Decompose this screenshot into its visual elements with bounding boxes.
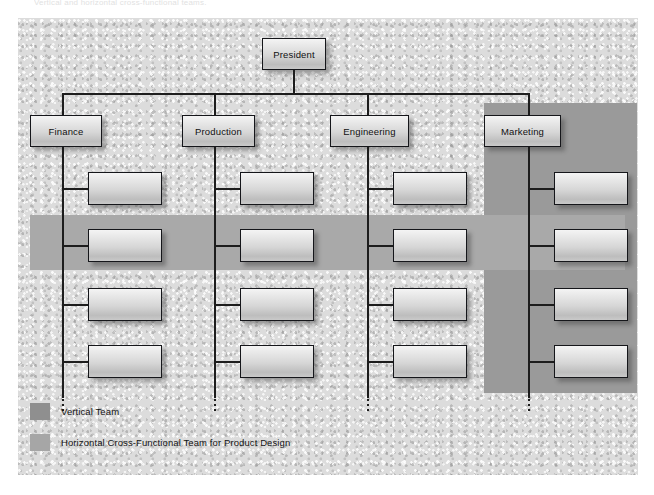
node-production-label: Production	[195, 126, 242, 137]
node-engineering-unit-1[interactable]	[393, 172, 467, 205]
connector-marketing-4	[528, 361, 554, 363]
node-engineering[interactable]: Engineering	[330, 115, 409, 147]
node-engineering-label: Engineering	[343, 126, 395, 137]
node-finance-unit-2[interactable]	[88, 229, 162, 262]
connector-engineering-2	[367, 245, 393, 247]
node-marketing-unit-4[interactable]	[554, 345, 628, 378]
node-engineering-unit-4[interactable]	[393, 345, 467, 378]
connector-finance-1	[62, 188, 88, 190]
node-finance-unit-1[interactable]	[88, 172, 162, 205]
connector-bus	[62, 93, 529, 95]
connector-production-4	[214, 361, 240, 363]
diagram-canvas: President Finance Production Engineering…	[18, 18, 638, 475]
stem-engineering-dots	[367, 399, 369, 412]
connector-marketing-3	[528, 304, 554, 306]
connector-finance-2	[62, 245, 88, 247]
node-production-unit-4[interactable]	[240, 345, 314, 378]
node-finance-unit-3[interactable]	[88, 288, 162, 321]
connector-production-1	[214, 188, 240, 190]
connector-marketing-2	[528, 245, 554, 247]
top-caption: Vertical and horizontal cross-functional…	[34, 0, 207, 7]
connector-engineering-3	[367, 304, 393, 306]
node-finance-unit-4[interactable]	[88, 345, 162, 378]
node-marketing-label: Marketing	[501, 126, 544, 137]
stem-marketing-dots	[528, 399, 530, 412]
connector-production-2	[214, 245, 240, 247]
node-president[interactable]: President	[262, 38, 326, 70]
node-production[interactable]: Production	[182, 115, 255, 147]
node-marketing[interactable]: Marketing	[484, 115, 561, 147]
node-engineering-unit-3[interactable]	[393, 288, 467, 321]
node-marketing-unit-3[interactable]	[554, 288, 628, 321]
connector-finance-4	[62, 361, 88, 363]
connector-drop-finance	[62, 93, 64, 116]
legend-item-horizontal-team: Horizontal Cross-Functional Team for Pro…	[30, 433, 290, 451]
node-marketing-unit-1[interactable]	[554, 172, 628, 205]
connector-president-drop	[293, 70, 295, 93]
node-production-unit-1[interactable]	[240, 172, 314, 205]
connector-production-3	[214, 304, 240, 306]
connector-engineering-4	[367, 361, 393, 363]
legend-swatch-horizontal-team	[30, 434, 50, 451]
legend-label-vertical-team: Vertical Team	[61, 406, 119, 417]
connector-drop-marketing	[528, 93, 530, 116]
node-production-unit-2[interactable]	[240, 229, 314, 262]
node-engineering-unit-2[interactable]	[393, 229, 467, 262]
legend-item-vertical-team: Vertical Team	[30, 402, 119, 420]
stem-production-dots	[214, 399, 216, 412]
connector-drop-engineering	[367, 93, 369, 116]
connector-marketing-1	[528, 188, 554, 190]
node-marketing-unit-2[interactable]	[554, 229, 628, 262]
legend-swatch-vertical-team	[30, 403, 50, 420]
connector-engineering-1	[367, 188, 393, 190]
node-finance[interactable]: Finance	[30, 115, 102, 147]
connector-finance-3	[62, 304, 88, 306]
node-president-label: President	[273, 49, 314, 60]
legend-label-horizontal-team: Horizontal Cross-Functional Team for Pro…	[61, 437, 290, 448]
node-production-unit-3[interactable]	[240, 288, 314, 321]
node-finance-label: Finance	[49, 126, 84, 137]
connector-drop-production	[214, 93, 216, 116]
